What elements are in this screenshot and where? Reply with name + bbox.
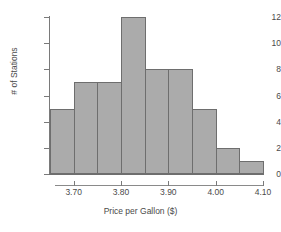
plot-area bbox=[50, 17, 263, 174]
histogram-bar bbox=[192, 109, 217, 174]
x-tick-label: 4.00 bbox=[196, 188, 236, 197]
histogram-bar bbox=[97, 82, 122, 174]
histogram-bar bbox=[168, 69, 193, 174]
histogram-bar bbox=[74, 82, 99, 174]
histogram-bar bbox=[121, 17, 146, 174]
x-tick-label: 3.80 bbox=[101, 188, 141, 197]
histogram-figure: 024681012 # of Stations 3.703.803.904.00… bbox=[0, 0, 281, 232]
x-tick-mark bbox=[121, 181, 122, 186]
x-tick-mark bbox=[263, 181, 264, 186]
x-tick-label: 3.70 bbox=[54, 188, 94, 197]
histogram-bar bbox=[216, 148, 241, 174]
x-axis-line bbox=[55, 185, 264, 186]
y-axis-title: # of Stations bbox=[9, 21, 19, 121]
y-tick-mark bbox=[44, 17, 49, 18]
y-tick-mark bbox=[44, 122, 49, 123]
histogram-bar bbox=[145, 69, 170, 174]
x-axis-baseline bbox=[49, 174, 264, 175]
y-tick-mark bbox=[44, 148, 49, 149]
y-tick-mark bbox=[44, 69, 49, 70]
histogram-bar bbox=[50, 109, 75, 174]
x-tick-mark bbox=[168, 181, 169, 186]
x-tick-label: 3.90 bbox=[148, 188, 188, 197]
y-tick-mark bbox=[44, 43, 49, 44]
x-tick-mark bbox=[74, 181, 75, 186]
x-axis-title: Price per Gallon ($) bbox=[0, 206, 281, 216]
x-tick-label: 4.10 bbox=[243, 188, 281, 197]
histogram-bar bbox=[239, 161, 264, 174]
y-tick-mark bbox=[44, 96, 49, 97]
x-tick-mark bbox=[216, 181, 217, 186]
